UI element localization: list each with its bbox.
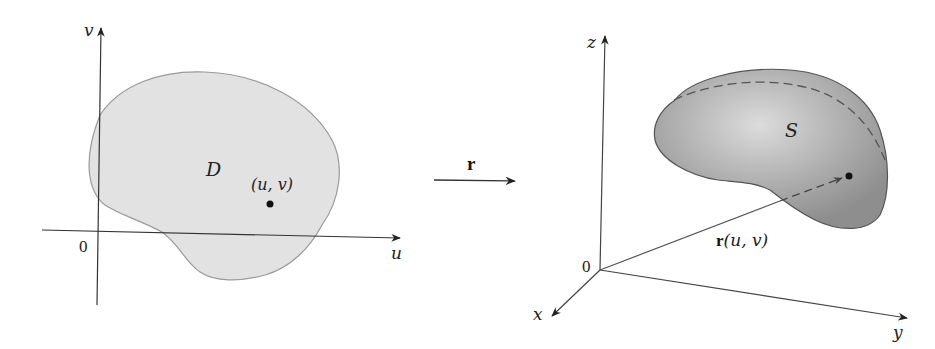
mapping-label: r [467, 153, 476, 174]
u-axis-label: u [391, 243, 402, 263]
vector-label-args: (u, v) [724, 230, 769, 250]
origin-label-left: 0 [79, 237, 88, 256]
x-axis [552, 270, 600, 316]
vector-label: r(u, v) [716, 230, 768, 250]
point-uv-label: (u, v) [251, 175, 293, 194]
surface-point [846, 173, 853, 180]
z-axis-label: z [586, 32, 597, 52]
y-axis-label: y [892, 322, 903, 342]
uv-plane-panel: v u 0 D (u, v) [42, 20, 402, 305]
xyz-space-panel: z y x 0 S r(u, v) [533, 32, 907, 342]
surface-mapping-diagram: v u 0 D (u, v) r z y x 0 S r(u, v) [0, 0, 935, 349]
surface-s-label: S [785, 119, 798, 141]
mapping-r: r [434, 153, 515, 181]
y-axis [600, 270, 907, 318]
mapping-arrow [434, 180, 515, 181]
z-axis [600, 36, 605, 270]
point-uv [267, 201, 274, 208]
origin-label-right: 0 [582, 257, 591, 276]
region-d-label: D [205, 158, 221, 180]
v-axis-label: v [84, 20, 94, 40]
x-axis-label: x [533, 304, 543, 324]
